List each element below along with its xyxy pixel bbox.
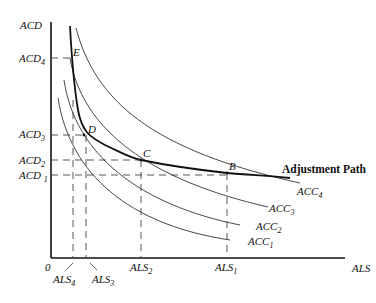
guide-lines <box>51 58 227 258</box>
origin-label: 0 <box>45 261 51 273</box>
x-tick-als3: ALS3 <box>91 273 114 288</box>
adjustment-path-label: Adjustment Path <box>282 163 367 176</box>
acc-curve-2 <box>64 80 240 225</box>
x-tick-als4: ALS4 <box>52 273 75 288</box>
y-tick-acd3: ACD3 <box>18 128 45 143</box>
y-tick-acd1: ACD 1 <box>18 169 48 184</box>
x-tick-als1: ALS1 <box>214 261 237 276</box>
point-d-marker <box>83 134 86 137</box>
acc2-label: ACC2 <box>255 220 281 235</box>
y-tick-acd2: ACD2 <box>18 154 45 169</box>
y-axis-label: ACD <box>19 19 42 31</box>
adjustment-path-curve <box>70 26 290 178</box>
y-tick-acd4: ACD4 <box>18 52 45 67</box>
acc1-label: ACC1 <box>247 235 273 250</box>
point-c-label: C <box>143 147 151 159</box>
adjustment-path-diagram: ACD ALS 0 ACD4 ACD3 ACD2 ACD 1 ALS4 ALS3… <box>0 0 376 303</box>
acc3-label: ACC3 <box>268 202 294 217</box>
acc4-label: ACC4 <box>296 185 322 200</box>
als3-arrow-icon <box>90 263 97 270</box>
point-e-label: E <box>72 46 80 58</box>
x-axis-label: ALS <box>351 262 371 274</box>
point-b-marker <box>226 172 229 175</box>
x-tick-als2: ALS2 <box>129 261 152 276</box>
point-d-label: D <box>87 123 96 135</box>
point-c-marker <box>140 159 143 162</box>
als4-arrow-icon <box>66 263 73 270</box>
acc-curve-1 <box>58 98 230 240</box>
acc-curve-4 <box>76 28 300 183</box>
point-b-label: B <box>229 160 236 172</box>
